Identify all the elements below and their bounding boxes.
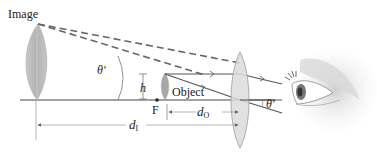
image-leaf xyxy=(26,24,47,100)
magnifier-diagram: Image θ′ h Object F xyxy=(0,0,377,155)
focal-point-label: F xyxy=(152,103,159,117)
focal-point-marker xyxy=(155,98,159,102)
height-label: h xyxy=(140,81,146,95)
object-leaf xyxy=(161,73,169,100)
angle-arc-right xyxy=(262,100,263,107)
object-label: Object xyxy=(172,85,205,99)
theta-prime-left-label: θ′ xyxy=(97,63,106,77)
angle-arc-left xyxy=(118,56,123,100)
dashed-virtual-rays xyxy=(38,24,240,75)
theta-prime-right-label: θ′ xyxy=(266,97,275,111)
eye xyxy=(285,48,377,132)
image-label: Image xyxy=(8,7,38,21)
